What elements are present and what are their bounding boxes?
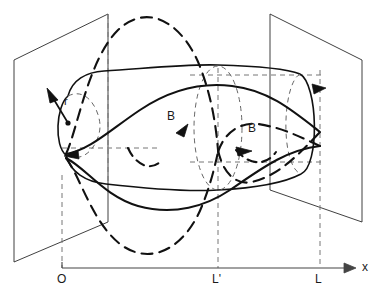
x-axis	[62, 262, 356, 273]
field-vector-front-label: B	[248, 122, 256, 134]
field-vector-B-back	[176, 124, 188, 137]
axis-tick-label-l: L	[315, 273, 322, 285]
axis-label-x: x	[362, 261, 368, 273]
field-line-lower-front	[66, 146, 320, 210]
flux-tube-diagram	[0, 0, 377, 293]
field-line-upper-front	[66, 85, 320, 154]
field-vector-back-label: B	[167, 110, 175, 122]
figure-canvas: r B B O L' L x	[0, 0, 377, 293]
left-plane	[14, 14, 108, 262]
axis-tick-label-l-prime: L'	[212, 273, 221, 285]
field-line-arrow-upper	[312, 84, 326, 94]
construction-lines	[62, 14, 322, 268]
right-plane	[270, 14, 362, 222]
axis-tick-label-origin: O	[57, 273, 66, 285]
field-line-rear-arcs	[128, 148, 276, 166]
radius-vector-label: r	[64, 96, 68, 107]
field-vector-B-front	[236, 147, 252, 156]
